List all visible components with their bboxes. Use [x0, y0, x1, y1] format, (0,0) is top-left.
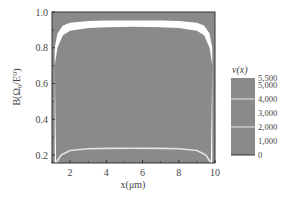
x-axis-label: x(μm) [121, 179, 146, 191]
colorbar-tick-label: 4,000 [258, 94, 277, 104]
colorbar-tick-label: 5,000 [258, 80, 277, 90]
y-tick-label: 0.2 [36, 150, 49, 161]
y-tick-label: 0.4 [36, 114, 49, 125]
colorbar-tick-label: 0 [258, 150, 262, 160]
plot-area [52, 12, 215, 163]
chart: 246810 0.20.40.60.81.0 x(μm) B(Ω₀/E⁰) v(… [0, 0, 288, 200]
y-axis: 0.20.40.60.81.0 [36, 7, 56, 161]
colorbar-label: v(x) [232, 64, 248, 76]
y-tick-label: 0.6 [36, 78, 49, 89]
colorbar-swatch [231, 78, 255, 155]
x-tick-label: 6 [140, 167, 145, 178]
colorbar-tick-label: 1,000 [258, 136, 277, 146]
x-tick-label: 4 [104, 167, 109, 178]
colorbar-ticks: 5,5005,0004,0003,0002,0001,0000 [258, 73, 277, 160]
colorbar-tick-label: 2,000 [258, 122, 277, 132]
y-tick-label: 0.8 [36, 42, 49, 53]
colorbar: v(x) 5,5005,0004,0003,0002,0001,0000 [231, 64, 277, 160]
y-axis-label: B(Ω₀/E⁰) [11, 68, 23, 105]
y-tick-label: 1.0 [36, 7, 49, 18]
x-tick-label: 8 [176, 167, 181, 178]
x-tick-label: 10 [210, 167, 220, 178]
x-tick-label: 2 [68, 167, 73, 178]
colorbar-tick-label: 3,000 [258, 108, 277, 118]
